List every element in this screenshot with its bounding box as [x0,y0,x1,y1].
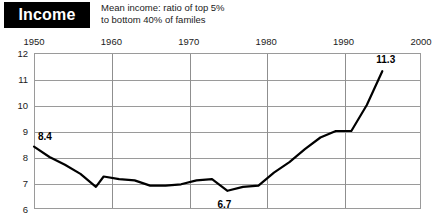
y-axis-tick-label: 12 [12,48,28,59]
income-ratio-line [34,71,382,191]
chart-subtitle-line-2: to bottom 40% of familes [101,14,331,26]
x-axis-tick-label: 1960 [101,36,122,47]
y-axis-tick-label: 11 [12,74,28,85]
data-series-line [34,53,421,209]
data-point-value-label: 6.7 [218,199,232,210]
line-chart: 195019601970198019902000 6789101112 8.46… [0,36,438,224]
category-title-box: Income [4,2,90,28]
y-axis-tick-label: 8 [12,152,28,163]
y-axis-tick-label: 9 [12,126,28,137]
x-axis-tick-label: 1970 [178,36,199,47]
x-axis-tick-label: 1950 [23,36,44,47]
chart-subtitle: Mean income: ratio of top 5% to bottom 4… [101,2,331,25]
x-axis-tick-label: 2000 [410,36,431,47]
y-axis-tick-label: 7 [12,178,28,189]
page-title: Income [18,7,75,23]
data-point-value-label: 8.4 [38,131,52,142]
chart-header: Income Mean income: ratio of top 5% to b… [0,0,438,36]
y-axis-tick-label: 10 [12,100,28,111]
data-point-value-label: 11.3 [376,54,395,65]
x-axis-tick-label: 1980 [256,36,277,47]
y-axis-tick-label: 6 [12,204,28,215]
chart-subtitle-line-1: Mean income: ratio of top 5% [101,2,331,14]
x-axis-tick-label: 1990 [333,36,354,47]
